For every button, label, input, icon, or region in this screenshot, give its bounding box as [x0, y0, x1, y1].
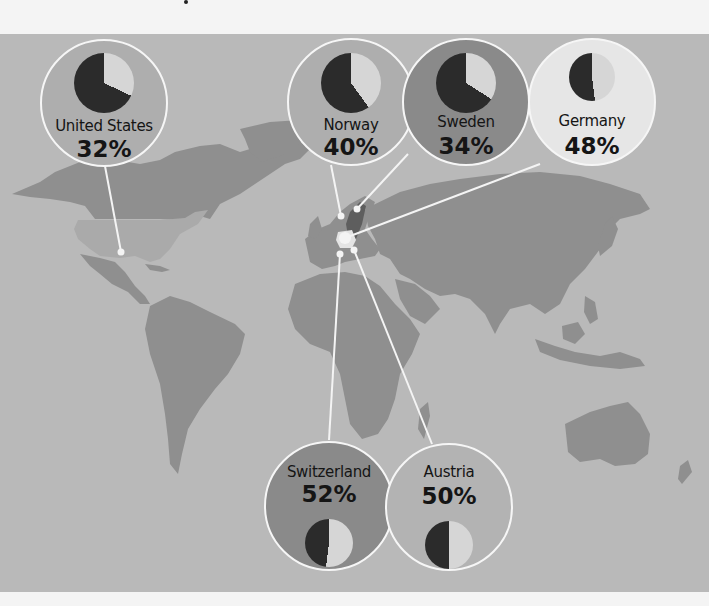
dot-germany — [339, 232, 351, 244]
pie-chart-united-states — [74, 53, 134, 113]
landmass-australia — [565, 402, 650, 466]
bubble-sweden: Sweden 34% — [402, 38, 530, 166]
bubble-austria: Austria 50% — [385, 443, 513, 571]
landmass-south-america — [145, 296, 245, 474]
pie-chart-sweden — [436, 53, 496, 113]
pie-chart-austria — [425, 521, 473, 569]
percentage-value: 52% — [266, 481, 392, 507]
country-name: Norway — [289, 116, 413, 134]
percentage-value: 32% — [42, 136, 166, 162]
connector-norway — [331, 165, 341, 216]
percentage-value: 34% — [404, 133, 528, 159]
landmass-philippines — [584, 296, 598, 324]
percentage-value: 40% — [289, 134, 413, 160]
landmass-new-zealand — [678, 460, 692, 484]
dot-united-states — [118, 249, 125, 256]
dot-sweden — [354, 206, 361, 213]
map-panel: United States 32% Norway 40% Sweden 34% … — [0, 34, 709, 592]
country-name: Sweden — [404, 113, 528, 131]
bubble-germany: Germany 48% — [528, 38, 656, 166]
pie-chart-germany — [569, 53, 615, 101]
landmass-borneo — [562, 322, 585, 344]
dot-norway — [338, 213, 345, 220]
pie-chart-norway — [321, 53, 381, 113]
landmass-central-america — [80, 254, 150, 304]
bubble-norway: Norway 40% — [287, 38, 415, 166]
dot-austria — [351, 247, 358, 254]
dot-switzerland — [337, 251, 344, 258]
country-name: Switzerland — [266, 463, 392, 481]
percentage-value: 48% — [530, 133, 654, 159]
bubble-switzerland: Switzerland 52% — [264, 441, 394, 571]
landmass-caribbean — [145, 264, 170, 272]
pie-chart-switzerland — [305, 519, 353, 567]
country-name: Austria — [387, 463, 511, 481]
title-fragment — [184, 0, 188, 4]
bubble-united-states: United States 32% — [40, 39, 168, 167]
percentage-value: 50% — [387, 483, 511, 509]
country-name: Germany — [530, 112, 654, 130]
landmass-indonesia — [535, 339, 645, 369]
country-name: United States — [42, 117, 166, 135]
